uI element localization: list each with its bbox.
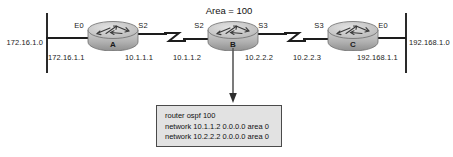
ip-label-a-e0: 172.16.1.1 — [48, 54, 84, 62]
ip-label-b-s3: 10.2.2.2 — [245, 54, 273, 62]
interface-label-c-e0: E0 — [378, 22, 387, 30]
callout-arrow-icon — [228, 48, 238, 104]
ip-label-b-s2: 10.1.1.2 — [173, 54, 201, 62]
interface-label-c-s3: S3 — [314, 22, 323, 30]
ip-label-c-s3: 10.2.2.3 — [293, 54, 321, 62]
left-ethernet-segment-bar — [46, 13, 48, 73]
serial-link-zigzag-icon-bc — [283, 30, 307, 44]
ip-label-c-e0: 192.168.1.1 — [357, 54, 398, 62]
interface-label-b-s2: S2 — [194, 22, 203, 30]
ip-label-a-s2: 10.1.1.1 — [125, 54, 153, 62]
area-annotation-label: Area = 100 — [206, 6, 253, 16]
link-lan-to-router-a — [46, 37, 90, 39]
left-ethernet-segment-label: 172.16.1.0 — [7, 39, 43, 47]
router-icon-a: A — [86, 21, 140, 51]
config-line-router-ospf: router ospf 100 — [165, 111, 274, 122]
right-ethernet-segment-bar — [405, 13, 407, 73]
router-icon-b: B — [206, 21, 260, 51]
right-ethernet-segment-label: 192.168.1.0 — [409, 39, 450, 47]
ospf-config-box: router ospf 100 network 10.1.1.2 0.0.0.0… — [156, 105, 282, 147]
network-topology-diagram: Area = 100 172.16.1.0 192.168.1.0 — [0, 0, 453, 157]
router-icon-c: C — [326, 21, 380, 51]
interface-label-b-s3: S3 — [258, 22, 267, 30]
config-line-network-2: network 10.2.2.2 0.0.0.0 area 0 — [165, 132, 274, 143]
router-label-a: A — [110, 41, 116, 49]
interface-label-a-e0: E0 — [74, 22, 83, 30]
interface-label-a-s2: S2 — [138, 22, 147, 30]
router-label-c: C — [350, 41, 356, 49]
serial-link-zigzag-icon-ab — [163, 30, 187, 44]
config-line-network-1: network 10.1.1.2 0.0.0.0 area 0 — [165, 122, 274, 133]
